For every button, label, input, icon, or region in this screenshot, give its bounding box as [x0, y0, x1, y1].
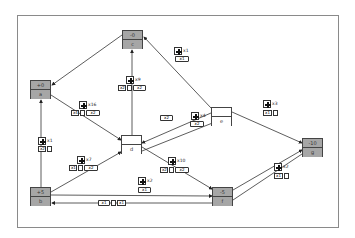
- badge-count: x3: [272, 101, 278, 106]
- badge-count: x9: [135, 77, 141, 82]
- vehicle-icon: [273, 110, 278, 116]
- node-e-label: e: [212, 117, 231, 126]
- vehicle-icon: [47, 146, 52, 152]
- node-d-label: d: [122, 145, 141, 154]
- vehicle-icon: x1: [117, 200, 126, 206]
- vehicle-icon: x2: [118, 85, 126, 91]
- truck-icon: x1: [98, 200, 110, 206]
- vehicle-icon: [169, 167, 174, 173]
- truck-icon: x2: [190, 121, 204, 127]
- edge-layer: [0, 0, 355, 238]
- edge-f-g-2: [233, 154, 302, 200]
- vehicle-icon: [80, 110, 85, 116]
- node-c-label: c: [123, 40, 142, 49]
- medical-cross-icon: [38, 137, 46, 145]
- badge-count: x1: [47, 138, 53, 143]
- truck-icon: x2: [160, 115, 173, 121]
- edge-f-g: [233, 150, 302, 190]
- medical-cross-icon: [191, 112, 199, 120]
- badge-count: x1: [183, 48, 189, 53]
- vehicle-icon: [284, 173, 289, 179]
- vehicle-icon: x1: [263, 110, 272, 116]
- medical-cross-icon: [79, 101, 87, 109]
- node-a-value: +0: [31, 81, 50, 90]
- medical-cross-icon: [77, 156, 85, 164]
- vehicle-icon: x1: [69, 165, 77, 171]
- medical-cross-icon: [138, 177, 146, 185]
- node-a-label: a: [31, 90, 50, 99]
- medical-cross-icon: [274, 163, 282, 171]
- node-g-label: g: [303, 148, 322, 157]
- node-g-value: -10: [303, 139, 322, 148]
- medical-cross-icon: [174, 47, 182, 55]
- medical-cross-icon: [126, 76, 134, 84]
- truck-icon: x1: [138, 187, 151, 193]
- node-e-value: [212, 108, 231, 117]
- node-a[interactable]: +0 a: [30, 80, 51, 99]
- node-f[interactable]: -5 f: [212, 187, 233, 206]
- badge-count: x4: [200, 113, 206, 118]
- truck-icon: x2: [86, 110, 100, 116]
- edge-b-f: [51, 195, 212, 196]
- vehicle-icon: x2: [160, 167, 168, 173]
- node-c[interactable]: -0 c: [122, 30, 143, 49]
- node-c-value: -0: [123, 31, 142, 40]
- medical-cross-icon: [168, 157, 176, 165]
- node-f-value: -5: [213, 188, 232, 197]
- edge-c-a: [52, 35, 122, 85]
- node-e[interactable]: e: [211, 107, 232, 126]
- vehicle-icon: [127, 85, 132, 91]
- node-f-label: f: [213, 197, 232, 206]
- vehicle-icon: x4: [71, 110, 79, 116]
- node-d[interactable]: d: [121, 135, 142, 154]
- edge-e-g: [232, 112, 302, 143]
- node-b-label: b: [31, 197, 50, 206]
- vehicle-icon: x1: [274, 173, 283, 179]
- vehicle-icon: [78, 165, 83, 171]
- edge-f-d: [142, 122, 215, 151]
- badge-count: x10: [177, 158, 185, 163]
- node-g[interactable]: -10 g: [302, 138, 323, 157]
- medical-cross-icon: [263, 100, 271, 108]
- truck-icon: x1: [175, 56, 189, 62]
- badge-count: x7: [86, 157, 92, 162]
- badge-count: x16: [88, 102, 96, 107]
- vehicle-icon: [111, 200, 116, 206]
- truck-icon: x2: [133, 85, 146, 91]
- badge-count: x2: [283, 164, 289, 169]
- node-b-value: +5: [31, 188, 50, 197]
- node-d-value: [122, 136, 141, 145]
- node-b[interactable]: +5 b: [30, 187, 51, 206]
- vehicle-icon: x2: [38, 146, 46, 152]
- badge-count: x2: [147, 178, 153, 183]
- truck-icon: x2: [84, 165, 98, 171]
- truck-icon: x2: [175, 167, 189, 173]
